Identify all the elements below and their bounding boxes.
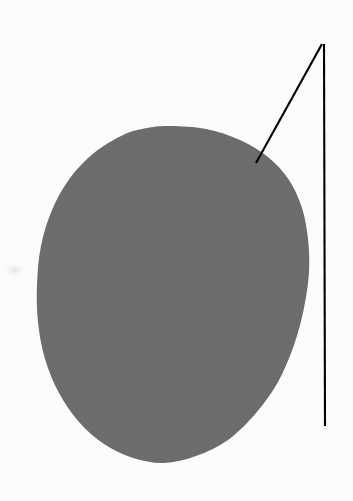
figure-canvas <box>0 0 353 501</box>
figure-root <box>0 0 353 501</box>
faint-print-smudge <box>8 267 22 273</box>
leader-vertical-segment <box>324 44 325 426</box>
